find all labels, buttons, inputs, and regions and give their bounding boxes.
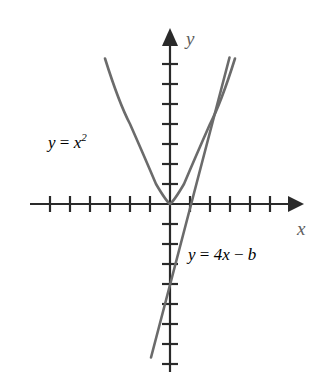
x-axis-group: [30, 196, 304, 212]
y-axis-label: y: [184, 28, 195, 49]
line-label-lhs: y: [188, 245, 196, 264]
line-label-intercept-term: b: [248, 245, 257, 264]
math-figure-parabola-and-line: y x y = x2 y = 4x − b: [0, 0, 320, 385]
parabola-label-exponent: 2: [81, 131, 87, 143]
line-label-minus: −: [234, 245, 244, 264]
parabola-equation-label: y = x2: [48, 131, 87, 153]
graph-canvas: y x: [0, 0, 320, 385]
x-axis-label: x: [296, 218, 306, 239]
line-curve-y-equals-4x-minus-b: [151, 58, 230, 358]
y-axis-group: [162, 28, 178, 372]
x-axis-arrowhead-icon: [288, 196, 304, 212]
parabola-label-equals: =: [60, 133, 70, 152]
line-equation-label: y = 4x − b: [188, 245, 256, 265]
parabola-label-lhs: y: [48, 133, 56, 152]
y-axis-arrowhead-icon: [162, 28, 178, 46]
line-label-equals: =: [200, 245, 210, 264]
line-label-slope-term: 4x: [214, 245, 230, 264]
